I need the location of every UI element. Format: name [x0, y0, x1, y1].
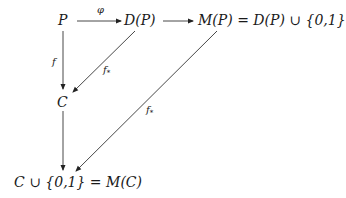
- arrow-fstar-1: [73, 31, 135, 92]
- label-fstar-1: f*: [103, 65, 110, 77]
- node-p: P: [58, 13, 67, 27]
- label-fstar-2: f*: [146, 105, 153, 117]
- node-mc: C ∪ {0,1} = M(C): [14, 175, 142, 189]
- node-dp: D(P): [124, 13, 156, 27]
- node-mp: M(P) = D(P) ∪ {0,1}: [198, 13, 346, 27]
- arrow-fstar-2: [76, 31, 217, 171]
- label-phi: φ: [97, 5, 104, 15]
- label-f: f: [52, 57, 56, 67]
- node-c: C: [57, 95, 68, 109]
